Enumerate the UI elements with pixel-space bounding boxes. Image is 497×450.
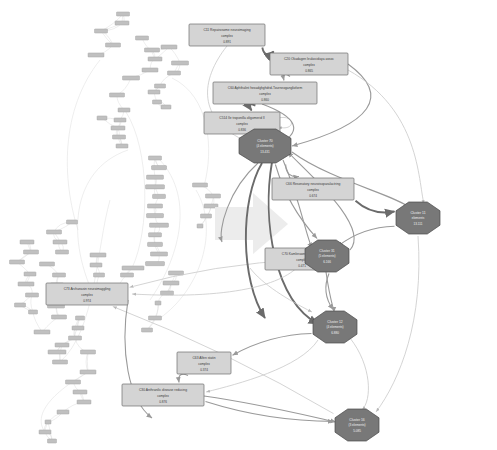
source-network-node — [88, 53, 104, 57]
cluster-node[interactable]: Cluster 70(4 elements)13.431 — [239, 129, 291, 163]
source-network-node — [122, 266, 144, 270]
source-network-node — [52, 315, 67, 319]
source-network-node — [153, 194, 166, 198]
source-network-node — [146, 185, 165, 189]
complex-node-title: C30 Anthranilic disease reducing — [139, 388, 187, 392]
source-network-node — [57, 410, 69, 414]
source-network-node — [148, 204, 163, 208]
source-network-node — [142, 68, 158, 72]
source-network-node — [39, 430, 51, 434]
complex-node-subtitle: complex — [303, 63, 315, 67]
complex-node-score: 0.891 — [223, 40, 231, 44]
source-network-node — [24, 272, 36, 276]
source-network-node — [193, 183, 208, 187]
complex-node-subtitle: complex — [81, 293, 93, 297]
source-network-node — [121, 273, 134, 277]
source-network-node — [15, 303, 26, 307]
complex-node-subtitle: complex — [157, 394, 169, 398]
source-network-node — [72, 326, 84, 330]
complex-node[interactable]: C63 Alfen statincomplex0.374 — [177, 352, 231, 374]
cluster-node[interactable]: Cluster 12(4 elements)6.880 — [313, 311, 357, 343]
complex-node[interactable]: C20 Okadagen leukocidaya assoccomplex0.8… — [270, 53, 348, 75]
source-network-node — [114, 118, 126, 122]
cluster-node-score: 13.111 — [413, 222, 422, 226]
complex-node-subtitle: complex — [307, 188, 319, 192]
complex-node-title: C20 Okadagen leukocidaya assoc — [284, 57, 334, 61]
source-network-node — [149, 233, 162, 237]
source-network-node — [163, 281, 179, 285]
complex-node-score: 0.471 — [298, 264, 306, 268]
complex-node[interactable]: C60 Aphthalint hexadghghdrid-Tourneogang… — [213, 82, 317, 104]
complex-node[interactable]: C66 Resonatory neuroisoparalactringcompl… — [272, 178, 354, 200]
source-network-node — [48, 439, 57, 443]
complex-node-score: 0.860 — [261, 98, 269, 102]
complex-node-score: 0.374 — [200, 368, 208, 372]
source-network-node — [116, 144, 128, 148]
cluster-node[interactable]: Cluster 11elements13.111 — [396, 202, 440, 234]
source-network-node — [95, 29, 108, 33]
source-network-node — [110, 93, 125, 97]
source-network-node — [48, 350, 66, 354]
source-network-node — [40, 262, 55, 266]
complex-node-score: 0.836 — [238, 128, 246, 132]
cluster-node[interactable]: Cluster 16(3 elements)5.085 — [335, 409, 379, 441]
source-network-node — [29, 310, 38, 314]
complex-node-subtitle: complex — [236, 122, 248, 126]
source-network-node — [18, 282, 34, 286]
cluster-node-score: 5.085 — [353, 429, 361, 433]
source-network-node — [69, 336, 82, 340]
source-network-node — [155, 84, 166, 88]
source-network-node — [53, 360, 68, 364]
source-network-node — [20, 240, 34, 244]
source-network-node — [90, 253, 106, 257]
source-network-node — [168, 71, 181, 75]
source-network-node — [94, 273, 105, 277]
complex-node-score: 0.974 — [83, 299, 91, 303]
cluster-node-title: Cluster 31 — [319, 249, 335, 253]
source-network-node — [90, 263, 102, 267]
complex-node-subtitle: complex — [198, 362, 210, 366]
cluster-node-subtitle: (4 elements) — [256, 144, 273, 148]
source-network-node — [153, 100, 162, 104]
cluster-node-subtitle: (3 elements) — [348, 423, 365, 427]
complex-node-title: C60 Aphthalint hexadghghdrid-Tourneogang… — [228, 86, 303, 90]
source-network-node — [24, 250, 39, 254]
source-network-node — [76, 316, 85, 320]
source-network-node — [26, 293, 39, 297]
source-network-node — [151, 252, 168, 256]
source-network-node — [34, 330, 50, 334]
cluster-node-score: 6.880 — [331, 331, 339, 335]
source-network-node — [148, 90, 160, 94]
cluster-node[interactable]: Cluster 31(5 elements)6.166 — [305, 240, 349, 272]
source-network-node — [111, 126, 125, 130]
complex-node-score: 0.865 — [305, 69, 313, 73]
source-network-node — [53, 273, 66, 277]
complex-node-title: C11 Repairosome neuroimaging — [203, 28, 250, 32]
source-network-node — [136, 36, 149, 40]
complex-node[interactable]: C11 Repairosome neuroimagingcomplex0.891 — [189, 24, 265, 46]
complex-node-subtitle: complex — [259, 92, 271, 96]
source-network-node — [55, 343, 69, 347]
complex-node-subtitle: complex — [221, 34, 233, 38]
cluster-node-title: Cluster 70 — [257, 139, 273, 143]
source-network-node — [10, 260, 25, 264]
complex-node[interactable]: C73 Archanasin neuroimagglingcomplex0.97… — [46, 283, 128, 305]
source-network-node — [149, 156, 162, 160]
cluster-node-subtitle: (4 elements) — [326, 325, 343, 329]
source-network-node — [148, 57, 162, 61]
source-network-node — [161, 291, 174, 295]
source-network-node — [147, 175, 164, 179]
complex-node-title: C514 Ile troponilla oligomerid II — [219, 116, 265, 120]
source-network-node — [115, 21, 129, 25]
source-network-node — [123, 76, 140, 80]
complex-node[interactable]: C30 Anthranilic disease reducingcomplex0… — [122, 384, 204, 406]
source-network-node — [149, 316, 162, 320]
cluster-node-title: Cluster 11 — [410, 211, 425, 215]
source-network-node — [145, 48, 160, 52]
source-network-node — [118, 108, 130, 112]
complex-node-title: C66 Resonatory neuroisoparalactring — [286, 182, 341, 186]
source-network-node — [66, 380, 81, 384]
cluster-node-title: Cluster 12 — [327, 320, 343, 324]
complex-node-score: 0.876 — [159, 400, 167, 404]
source-network-node — [53, 240, 67, 244]
